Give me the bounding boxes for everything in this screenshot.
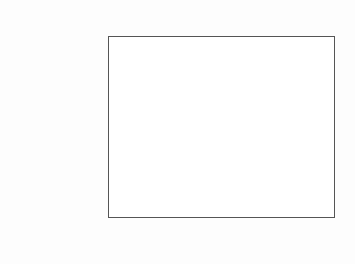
plot-area	[108, 36, 335, 218]
